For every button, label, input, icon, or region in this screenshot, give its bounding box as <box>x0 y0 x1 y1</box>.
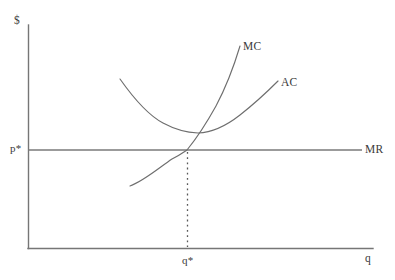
marginal-revenue-label: MR <box>365 144 383 156</box>
diagram-canvas <box>0 0 395 280</box>
average-cost-label: AC <box>281 77 297 89</box>
price-equilibrium-label: p* <box>10 143 21 154</box>
marginal-cost-label: MC <box>243 41 261 53</box>
economics-cost-curve-diagram: $ q p* q* MC AC MR <box>0 0 395 280</box>
average-cost-curve <box>120 79 278 133</box>
x-axis-label: q <box>365 253 371 265</box>
quantity-equilibrium-label: q* <box>182 255 193 266</box>
marginal-cost-curve <box>130 46 240 186</box>
y-axis-label: $ <box>14 15 20 27</box>
